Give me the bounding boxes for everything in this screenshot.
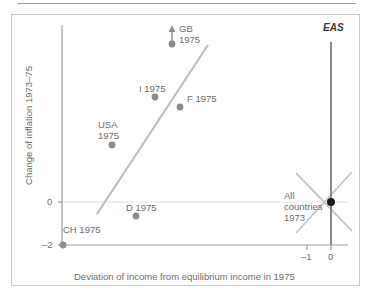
x-axis-title: Deviation of income from equilibrium inc… [74, 271, 295, 282]
label-f-1975: F 1975 [187, 93, 217, 104]
data-point-gb [169, 41, 176, 48]
data-point-usa [109, 142, 116, 149]
y-tick-label-zero: 0 [47, 196, 52, 207]
label-usa-line1: USA [98, 119, 118, 130]
label-i-1975: I 1975 [139, 83, 165, 94]
label-all-countries-line1: All [284, 190, 295, 201]
figure-root: EAS GB 1975 I 1975 F 1975 USA 1975 D 197… [0, 0, 372, 298]
data-point-d [133, 213, 140, 220]
data-point-f [177, 104, 184, 111]
label-all-countries-line3: 1973 [284, 212, 305, 223]
label-ch-1975: CH 1975 [63, 224, 101, 235]
data-point-all-countries [327, 198, 335, 206]
label-usa-line2: 1975 [98, 130, 119, 141]
label-all-countries-line2: countries [284, 201, 323, 212]
x-tick-label-zero: 0 [328, 251, 333, 262]
y-tick-label-minus2: –2 [42, 239, 53, 250]
data-point-i [152, 94, 159, 101]
y-axis-title: Change of inflation 1973–75 [23, 36, 34, 216]
label-gb-line1: GB [179, 23, 193, 34]
gb-up-arrow-icon [169, 25, 176, 42]
x-tick-label-minus1: –1 [301, 251, 312, 262]
label-d-1975: D 1975 [126, 202, 157, 213]
eas-label: EAS [323, 22, 344, 33]
label-gb-line2: 1975 [179, 34, 200, 45]
data-point-ch [60, 242, 67, 249]
